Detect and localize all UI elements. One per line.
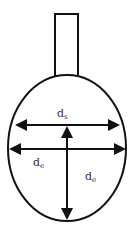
bulb-diagram: ds de de (0, 0, 136, 235)
stem-rectangle (55, 14, 78, 77)
